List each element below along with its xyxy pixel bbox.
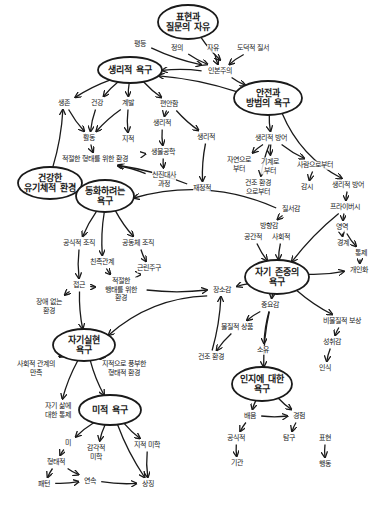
concept-label-formal: 공식적 [227,434,245,443]
arrow-physio-to-comfort [144,82,162,98]
concept-label-possession: 소유 [257,346,269,355]
concept-label-kinship: 친족관계 [90,258,114,267]
arrow-growth-to-activity [96,110,121,132]
concept-label-control: 통제 [355,249,367,258]
need-node-safety: 안전과 방범의 욕구 [246,88,289,108]
arrow-privacy-to-esteem [292,214,339,262]
concept-label-justice: 정의 [171,44,183,53]
concept-label-material: 물질적 상품 [221,323,253,332]
concept-label-beauty: 미 [65,439,71,448]
concept-label-symbol: 상징 [142,480,154,489]
arrow-access-to-selfact [79,292,82,330]
concept-label-order: 질서감 [282,205,300,214]
concept-label-importance: 중요감 [261,301,279,310]
concept-label-nonmaterial: 비물질적 보상 [323,317,361,326]
concept-label-activity: 활동 [83,134,95,143]
concept-label-formal_aes: 형태적 [47,458,65,467]
arrow-order_seq-to-symbol [101,482,137,484]
arrow-humanism-to-physio [162,69,202,70]
concept-label-order_seq: 연속 [84,477,96,486]
concept-label-moral: 도덕적 질서 [237,44,269,53]
need-node-free: 표현과 질문의 자유 [166,12,209,32]
concept-label-health: 건강 [91,99,103,108]
arrow-survival-to-activity [69,110,85,132]
concept-label-formal_org: 공식적 조직 [63,239,95,248]
concept-label-cognitive_aes: 지적 미학 [134,441,160,450]
need-node-healthy: 건강한 유기체적 환경 [24,173,75,193]
arrow-aesthetic-to-cognitive_aes [124,423,140,438]
arrow-beauty-to-formal_aes [60,450,64,456]
concept-label-from_nature: 자연으로 부터 [227,156,251,173]
concept-label-recognition: 인식 [319,364,331,373]
arrow-comfort-to-physio2 [164,111,166,117]
concept-label-behavior: 행동 [319,460,331,469]
arrow-formal_org-to-access [78,250,79,279]
arrow-order-to-direction [277,216,282,220]
arrow-selfact-to-self_control [62,361,77,399]
need-node-belong: 동화하려는 욕구 [85,186,125,206]
concept-label-neighbor: 근린주구 [137,264,161,273]
arrow-belong-to-formal_org [83,211,97,236]
arrow-cognitive-to-learning [252,401,255,410]
concept-label-proper_env: 적절한 형태를 위한 환경 [62,155,129,164]
needs-diagram: 표현과 질문의 자유생리적 욕구안전과 방범의 욕구건강한 유기체적 환경동화하… [0,0,386,507]
concept-label-physio3: 생리적 [197,133,215,142]
arrow-phys_def-to-from_people [282,145,305,159]
concept-label-expression: 표현 [319,434,331,443]
arrow-aesthetic-to-sensory [100,425,105,441]
arrow-phys_def2-to-privacy [346,192,347,201]
connection-arrows [0,0,386,507]
arrow-belong-to-community [116,211,134,237]
arrow-esteem-to-personal [309,271,345,274]
concept-label-social_rel: 사회적 관계의 만족 [17,360,55,377]
concept-label-experience: 경험 [293,412,305,421]
arrow-belong-to-kinship [102,212,104,256]
concept-label-survival: 생존 [58,99,70,108]
arrow-bio-to-metabolism [163,159,164,169]
concept-label-boundary: 경계 [337,239,349,248]
arrow-privacy-to-territory [343,214,344,221]
arrow-community-to-neighbor [141,250,146,262]
arrow-nonmaterial-to-achievement [335,328,339,336]
arrow-growth-to-intellect [127,110,128,133]
concept-label-privacy: 프라이버시 [330,203,360,212]
concept-label-fiscal: 재정적 [193,184,211,193]
concept-label-barrier_free: 장애 없는 환경 [36,298,62,315]
arrow-physio-to-health [104,82,119,97]
arrow-spatial-to-esteem [257,244,267,261]
arrow-physio3-to-fiscal [202,144,205,182]
concept-label-watch: 감시 [301,183,313,192]
concept-label-metabolism: 신진대사 과정 [152,171,176,188]
concept-label-place: 장소감 [213,286,231,295]
concept-label-bio: 생물공학 [151,148,175,157]
arrow-comfort-to-physio3 [176,111,198,131]
concept-label-humanism: 인본주의 [208,67,232,76]
concept-label-freedom: 자유 [207,44,219,53]
need-node-aesthetic: 미적 욕구 [92,405,127,415]
arrow-esteem-to-place [237,284,248,287]
arrow-kinship-to-proper_env2 [106,269,110,275]
concept-label-community: 공동체 조직 [122,239,154,248]
arrow-formal_aes-to-order_seq [68,469,79,475]
concept-label-direction: 방향감 [260,222,278,231]
arrow-safety-to-phys_def [269,115,270,132]
arrow-importance-to-material [247,312,260,321]
concept-label-phys_def: 생리적 방어 [255,134,287,143]
concept-label-personal: 개인화 [350,266,368,275]
concept-label-spatial: 공간적 [244,233,262,242]
concept-label-access: 접근 [73,281,85,290]
concept-label-intellect: 지적 [122,135,134,144]
arrow-cognitive-to-experience [278,398,291,409]
concept-label-achievement: 성취감 [323,338,341,347]
arrow-pattern-to-order_seq [55,482,79,484]
arrow-humanism-to-safety [232,78,246,86]
arrow-esteem-to-nonmaterial [297,290,333,314]
arrow-health-to-activity [91,110,96,132]
arrow-material-to-built_env [217,334,232,351]
arrow-learning-to-experience [261,416,288,417]
arrow-access-to-proper_env2 [90,286,95,287]
need-node-selfact: 자기실현 욕구 [68,335,100,355]
concept-label-learning: 배움 [244,412,256,421]
concept-label-growth: 계발 [122,99,134,108]
concept-label-from_machine: 기계로 부터 [261,158,279,175]
